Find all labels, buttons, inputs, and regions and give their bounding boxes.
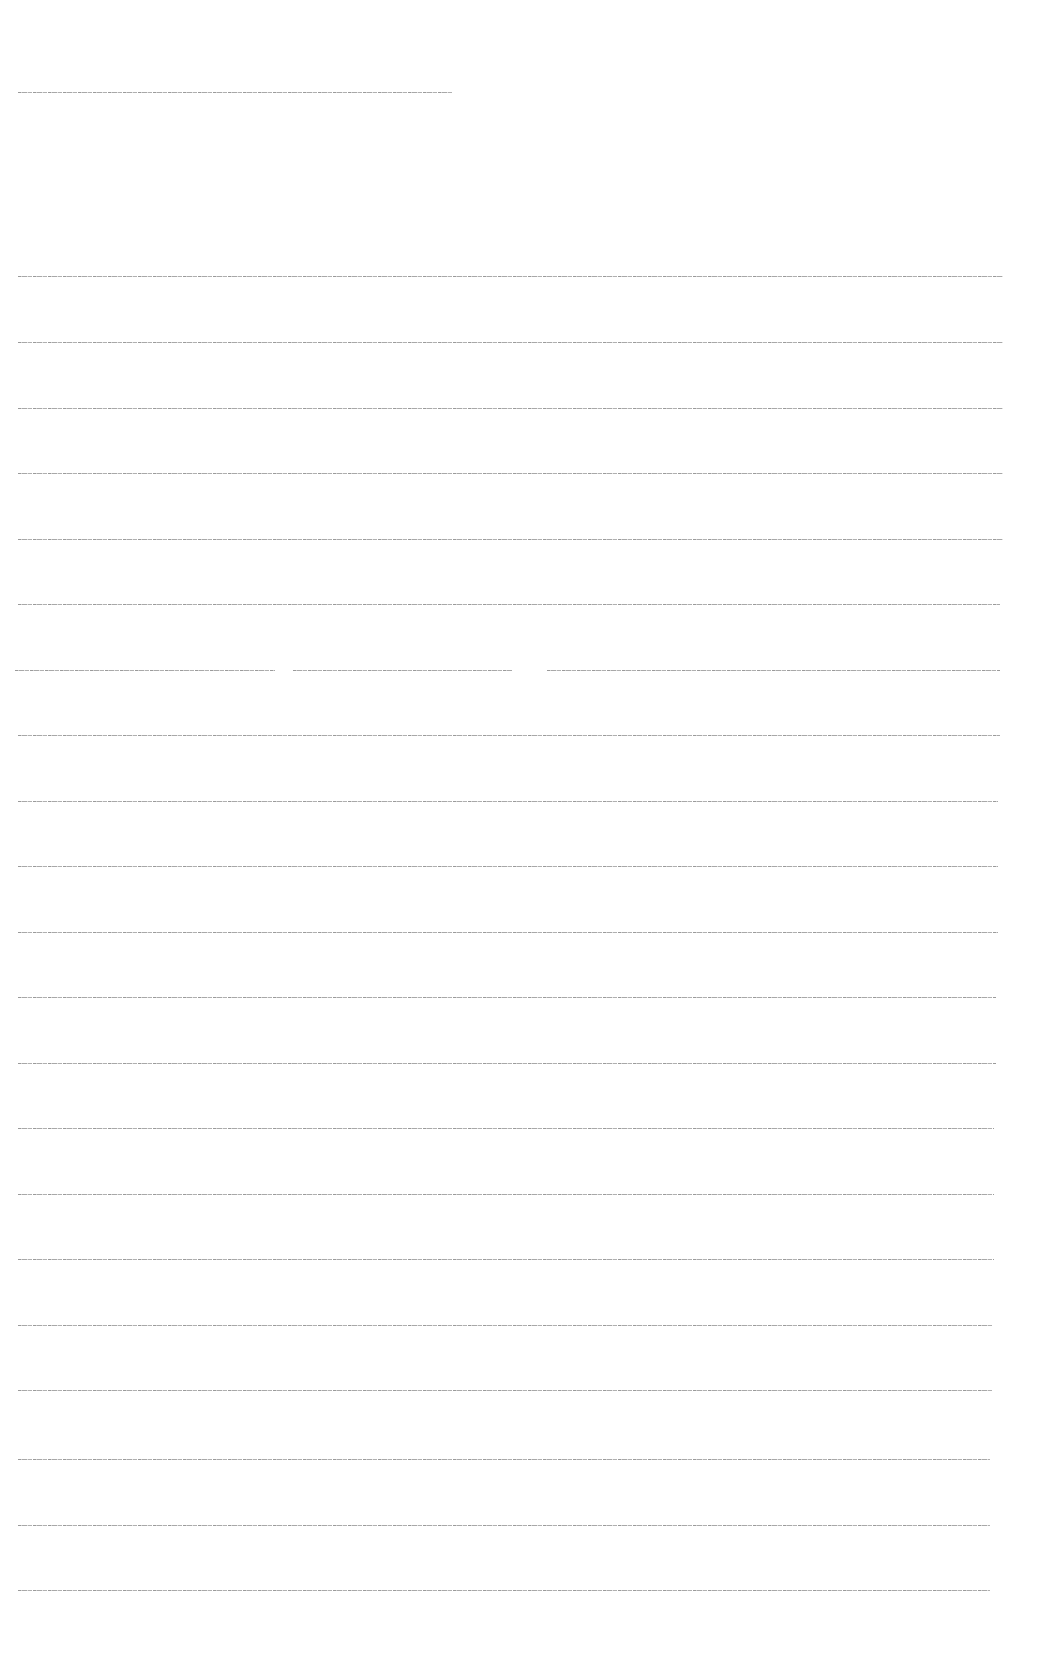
text-mark xyxy=(18,1325,992,1326)
text-mark xyxy=(18,408,1003,409)
text-mark xyxy=(18,342,1003,343)
text-line: [illegible text line 1] xyxy=(18,275,1003,278)
text-line: [illegible text line 16] xyxy=(18,1258,994,1261)
text-mark xyxy=(18,1459,990,1460)
text-line: [illegible text line 10] xyxy=(18,865,998,868)
text-segment: [illegible segment b] xyxy=(293,669,512,672)
text-mark xyxy=(18,1128,994,1129)
text-mark xyxy=(18,1525,990,1526)
text-mark xyxy=(18,1063,996,1064)
text-line: [illegible segment a][illegible segment … xyxy=(0,669,1056,672)
text-line: [illegible text line 3] xyxy=(18,407,1003,410)
text-mark xyxy=(18,735,1000,736)
text-mark xyxy=(18,1590,990,1591)
text-mark xyxy=(18,801,998,802)
text-segment: [illegible segment a] xyxy=(15,669,275,672)
text-line: [illegible text line 8] xyxy=(18,734,1000,737)
text-line: [illegible text line 14] xyxy=(18,1127,994,1130)
text-mark xyxy=(18,539,1003,540)
text-line: [illegible text line 11] xyxy=(18,931,998,934)
text-mark xyxy=(293,670,512,671)
text-line: [illegible text line 17] xyxy=(18,1324,992,1327)
text-line: [illegible text line 12] xyxy=(18,996,996,999)
text-line: [illegible text line 9] xyxy=(18,800,998,803)
text-line: [illegible text line 5] xyxy=(18,538,1003,541)
text-mark xyxy=(18,866,998,867)
text-mark xyxy=(18,473,1003,474)
text-line: [illegible text line 20] xyxy=(18,1524,990,1527)
text-line: [illegible text line 4] xyxy=(18,472,1003,475)
text-mark xyxy=(18,276,1003,277)
text-line: [illegible text line 13] xyxy=(18,1062,996,1065)
text-mark xyxy=(547,670,1000,671)
text-mark xyxy=(18,1194,994,1195)
text-line: [illegible text line 2] xyxy=(18,341,1003,344)
text-mark xyxy=(18,604,1000,605)
text-line: [illegible text line 18] xyxy=(18,1389,992,1392)
text-line: [illegible text line 21] xyxy=(18,1589,990,1592)
text-segment: [illegible segment c] xyxy=(547,669,1000,672)
text-line: [illegible text line 19] xyxy=(18,1458,990,1461)
text-line: [illegible text line 15] xyxy=(18,1193,994,1196)
text-line: [illegible text line 6] xyxy=(18,603,1000,606)
text-mark xyxy=(15,670,275,671)
text-mark xyxy=(18,932,998,933)
text-mark xyxy=(18,1390,992,1391)
document-header-line: [illegible header text line] xyxy=(18,91,452,94)
text-mark xyxy=(18,92,452,93)
text-mark xyxy=(18,997,996,998)
text-mark xyxy=(18,1259,994,1260)
